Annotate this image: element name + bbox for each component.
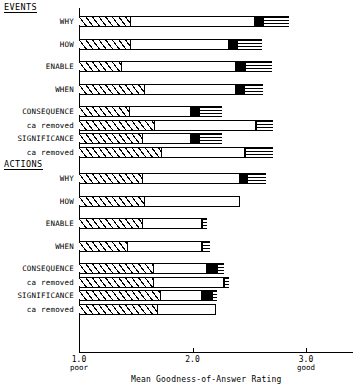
segment-hatched	[79, 62, 122, 71]
segment-white	[131, 40, 229, 49]
segment-white	[145, 197, 240, 206]
segment-white	[143, 219, 202, 228]
segment-black	[191, 107, 199, 116]
segment-white	[158, 305, 216, 314]
segment-white	[122, 62, 236, 71]
segment-lines	[217, 264, 224, 273]
x-axis-title: Mean Goodness-of-Answer Rating	[131, 375, 282, 384]
x-axis-line	[79, 352, 353, 353]
segment-white	[143, 174, 241, 183]
segment-hatched	[79, 121, 155, 130]
segment-white	[143, 134, 192, 143]
row-label-events-5: ca removed	[0, 121, 74, 130]
segment-lines	[244, 85, 263, 94]
goodness-of-answer-bar-chart: 1.0poor2.03.0goodMean Goodness-of-Answer…	[0, 0, 353, 390]
segment-white	[154, 264, 207, 273]
row-label-actions-7: ca removed	[0, 305, 74, 314]
segment-hatched	[79, 219, 143, 228]
segment-black	[255, 17, 263, 26]
bar-events-0	[79, 16, 289, 27]
segment-lines	[202, 242, 210, 251]
bar-events-3	[79, 84, 263, 95]
bar-events-6	[79, 133, 222, 144]
row-label-events-7: ca removed	[0, 148, 74, 157]
bar-events-5	[79, 120, 273, 131]
row-label-events-2: ENABLE	[0, 62, 74, 71]
bar-actions-3	[79, 241, 210, 252]
group-heading-events: EVENTS	[4, 2, 37, 13]
segment-black	[236, 62, 245, 71]
segment-hatched	[79, 85, 145, 94]
segment-lines	[199, 134, 222, 143]
x-tick-1-0	[79, 348, 80, 352]
segment-white	[155, 121, 256, 130]
segment-lines	[202, 219, 208, 228]
row-label-actions-3: WHEN	[0, 242, 74, 251]
segment-hatched	[79, 264, 154, 273]
row-label-actions-0: WHY	[0, 174, 74, 183]
segment-lines	[237, 40, 262, 49]
row-label-actions-4: CONSEQUENCE	[0, 264, 74, 273]
segment-hatched	[79, 40, 131, 49]
group-heading-actions: ACTIONS	[4, 159, 43, 170]
segment-black	[236, 85, 244, 94]
row-label-events-0: WHY	[0, 17, 74, 26]
x-tick-2-0	[193, 348, 194, 352]
x-tick-3-0	[306, 348, 307, 352]
segment-hatched	[79, 291, 161, 300]
segment-black	[191, 134, 199, 143]
segment-lines	[212, 291, 218, 300]
segment-white	[154, 278, 224, 287]
segment-black	[229, 40, 237, 49]
segment-white	[131, 17, 255, 26]
bar-events-1	[79, 39, 262, 50]
row-label-actions-5: ca removed	[0, 278, 74, 287]
bar-actions-0	[79, 173, 266, 184]
segment-hatched	[79, 148, 162, 157]
bar-events-4	[79, 106, 222, 117]
segment-lines	[224, 278, 229, 287]
bar-actions-5	[79, 277, 229, 288]
segment-hatched	[79, 305, 158, 314]
x-tick-label-1-0: 1.0poor	[57, 355, 101, 372]
bar-actions-7	[79, 304, 216, 315]
segment-black	[202, 291, 212, 300]
segment-hatched	[79, 278, 154, 287]
row-label-events-3: WHEN	[0, 85, 74, 94]
segment-hatched	[79, 242, 128, 251]
segment-white	[162, 148, 245, 157]
row-label-actions-1: HOW	[0, 197, 74, 206]
bar-actions-1	[79, 196, 240, 207]
segment-hatched	[79, 107, 130, 116]
segment-hatched	[79, 134, 143, 143]
segment-white	[145, 85, 236, 94]
bar-events-7	[79, 147, 273, 158]
segment-hatched	[79, 174, 143, 183]
segment-white	[130, 107, 191, 116]
bar-events-2	[79, 61, 272, 72]
bar-actions-6	[79, 290, 217, 301]
segment-hatched	[79, 197, 145, 206]
row-label-actions-2: ENABLE	[0, 219, 74, 228]
bar-actions-4	[79, 263, 224, 274]
row-label-events-1: HOW	[0, 40, 74, 49]
segment-lines	[199, 107, 222, 116]
segment-hatched	[79, 17, 131, 26]
segment-lines	[247, 174, 266, 183]
segment-white	[128, 242, 202, 251]
row-label-actions-6: SIGNIFICANCE	[0, 291, 74, 300]
row-label-events-4: CONSEQUENCE	[0, 107, 74, 116]
segment-lines	[256, 121, 273, 130]
segment-lines	[245, 62, 272, 71]
x-tick-label-3-0: 3.0good	[284, 355, 328, 372]
segment-lines	[245, 148, 273, 157]
bar-actions-2	[79, 218, 207, 229]
segment-lines	[263, 17, 289, 26]
row-label-events-6: SIGNIFICANCE	[0, 134, 74, 143]
segment-black	[240, 174, 247, 183]
segment-black	[207, 264, 217, 273]
segment-white	[161, 291, 202, 300]
x-tick-label-2-0: 2.0	[171, 355, 215, 364]
